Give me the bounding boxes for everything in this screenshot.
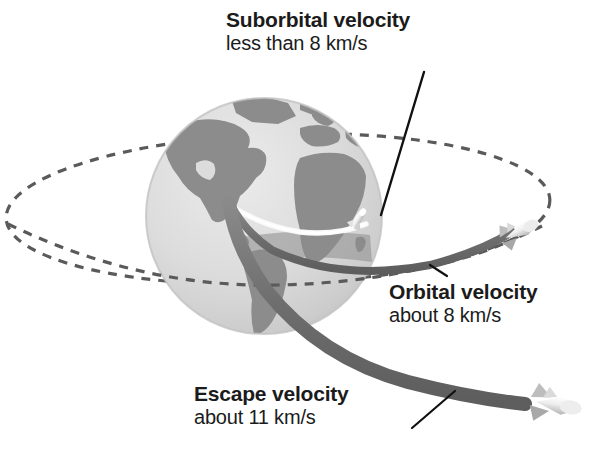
label-suborbital-title: Suborbital velocity	[226, 8, 410, 32]
label-escape: Escape velocity about 11 km/s	[194, 382, 349, 430]
rocket-orbital	[495, 210, 544, 253]
leader-line-suborbital	[381, 72, 424, 215]
label-orbital-subtitle: about 8 km/s	[389, 304, 538, 327]
label-suborbital: Suborbital velocity less than 8 km/s	[226, 8, 410, 56]
label-escape-subtitle: about 11 km/s	[194, 406, 349, 429]
label-suborbital-subtitle: less than 8 km/s	[226, 32, 410, 55]
leader-line-escape	[412, 391, 455, 428]
rocket-escape	[527, 382, 584, 428]
label-orbital-title: Orbital velocity	[389, 280, 538, 304]
diagram-canvas: Suborbital velocity less than 8 km/s Orb…	[0, 0, 610, 456]
label-orbital: Orbital velocity about 8 km/s	[389, 280, 538, 328]
label-escape-title: Escape velocity	[194, 382, 349, 406]
